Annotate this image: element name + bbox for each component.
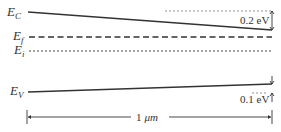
ev-label: EV [9, 83, 25, 100]
bottom-offset-label: 0.1 eV [240, 93, 269, 105]
top-offset-label: 0.2 eV [240, 14, 269, 26]
arrow-right-icon [268, 115, 271, 119]
ec-label: EC [6, 4, 22, 21]
conduction-band-line [28, 12, 272, 30]
arrow-left-icon [28, 115, 31, 119]
band-diagram: EC 0.2 eV Ef Ei EV 0.1 eV 1μm [0, 0, 281, 132]
valence-band-line [28, 84, 272, 92]
width-label: 1μm [136, 111, 158, 123]
